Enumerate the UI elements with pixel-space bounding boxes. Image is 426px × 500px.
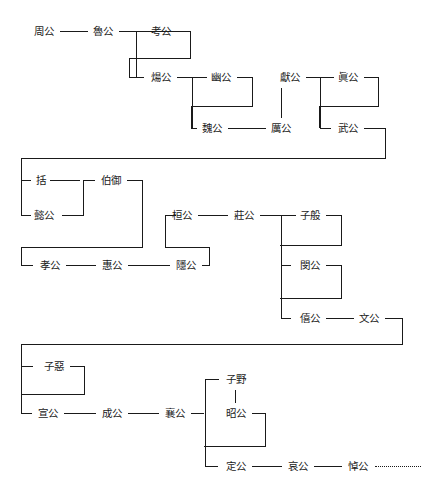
edge-kaogong-wrap-down (190, 31, 191, 58)
node-aigong: 哀公 (288, 460, 309, 472)
edge-spine-to-yigong (21, 215, 31, 216)
node-boyu: 伯御 (101, 174, 122, 186)
edge-xiangong-down-foot (320, 128, 331, 129)
edge-zhaogong-wrap-back (204, 446, 266, 447)
edge-mingong-wrap-back (280, 298, 342, 299)
edge-wengong-out (385, 318, 403, 319)
edge-ligong-xiangong (281, 88, 282, 118)
edge-huigong-yingong (128, 265, 170, 266)
edge-yigong-up-top (83, 180, 95, 181)
edge-ziban-out (326, 215, 342, 216)
edge-boyu-to-xiaogong (21, 265, 33, 266)
node-zhuanggong: 莊公 (234, 209, 255, 221)
edge-huangong-left-foot (165, 247, 210, 248)
edge-chenggong-xianggong (128, 413, 159, 414)
edge-zhengong-wrap-down (378, 77, 379, 106)
spine-xianggong-children (205, 379, 206, 466)
edge-yingong-wrap-tail (209, 247, 210, 265)
edge-zhougong-lugong (60, 31, 88, 32)
node-wugong: 武公 (338, 122, 359, 134)
edge-kuo-boyu (50, 180, 80, 181)
node-kaogong: 考公 (151, 25, 172, 37)
edge-spine-to-ziye (205, 379, 219, 380)
edge-spine-to-zie (21, 366, 33, 367)
edge-huangong-zhuanggong (198, 215, 228, 216)
edge-boyu-wrap-back (21, 247, 143, 248)
edge-huangong-left-up (165, 215, 166, 247)
edge-yingong-to-huangong (166, 215, 176, 216)
edge-zhaogong-wrap-down (265, 413, 266, 446)
node-zie: 子惡 (44, 360, 65, 372)
edge-yigong-bar (62, 215, 84, 216)
edge-zhengong-out (364, 77, 379, 78)
edge-spine-to-xuangong (21, 413, 32, 414)
node-xigong: 僖公 (300, 312, 321, 324)
edge-wengong-wrap-down (402, 318, 403, 344)
edge-yougong-wrap-back (191, 106, 253, 107)
node-zhougong: 周公 (34, 25, 55, 37)
edge-ziye-zhaogong-dash (235, 390, 236, 403)
edge-weigong-ligong (228, 128, 266, 129)
edge-boyu-wrap-tail (21, 247, 22, 265)
edge-kaogong-to-yanggong (129, 77, 144, 78)
edge-spine-to-xigong (281, 318, 291, 319)
edge-yougong-wrap-tail (191, 106, 192, 128)
edge-wugong-wrap-down (385, 128, 386, 158)
node-dinggong: 定公 (226, 460, 247, 472)
node-weigong: 魏公 (202, 122, 223, 134)
edge-zie-out (70, 366, 85, 367)
node-ziye: 子野 (226, 373, 247, 385)
edge-zie-wrap-down (84, 366, 85, 394)
node-yanggong: 煬公 (151, 71, 172, 83)
edge-lugong-down (136, 31, 137, 77)
edge-aigong-daogong (314, 466, 342, 467)
spine-row8 (21, 344, 22, 413)
node-yingong: 隱公 (176, 259, 197, 271)
node-wengong: 文公 (359, 312, 380, 324)
edge-yanggong-down (192, 77, 193, 128)
spine-zhuanggong-children (281, 215, 282, 318)
edge-spine-to-mingong (281, 265, 291, 266)
edge-dinggong-aigong (252, 466, 282, 467)
edge-zie-wrap-back (21, 394, 85, 395)
node-lugong: 魯公 (93, 25, 114, 37)
node-yougong: 幽公 (211, 71, 232, 83)
spine-row4 (21, 158, 22, 215)
edge-xiangong-down (320, 77, 321, 128)
edge-mingong-out (326, 265, 342, 266)
node-yigong: 懿公 (34, 209, 55, 221)
edge-yougong-to-weigong (191, 128, 197, 129)
node-zhaogong: 昭公 (226, 407, 247, 419)
edge-wugong-wrap-back (21, 158, 386, 159)
edge-zhengong-wrap-back (319, 106, 379, 107)
node-ziban: 子般 (300, 209, 321, 221)
edge-xuangong-chenggong (64, 413, 96, 414)
edge-wengong-wrap-back (21, 344, 403, 345)
node-xiaogong: 孝公 (40, 259, 61, 271)
edge-kaogong-wrap-back (129, 58, 191, 59)
node-ligong: 厲公 (271, 122, 292, 134)
edge-kaogong-wrap-tail (129, 58, 130, 77)
edge-ziban-wrap-back (280, 245, 342, 246)
edge-xigong-wengong (326, 318, 354, 319)
genealogy-chart: 周公 魯公 考公 煬公 幽公 獻公 眞公 魏公 厲公 武公 括 伯御 (0, 0, 426, 500)
edge-spine-to-kuo (21, 180, 31, 181)
edge-mingong-wrap-down (341, 265, 342, 298)
edge-yougong-out (237, 77, 253, 78)
node-daogong: 悼公 (348, 460, 369, 472)
node-kuo: 括 (36, 174, 46, 186)
node-xianggong: 襄公 (165, 407, 186, 419)
edge-zhuanggong-bar (260, 215, 296, 216)
edge-spine-to-dinggong (205, 466, 218, 467)
edge-ziban-wrap-down (341, 215, 342, 245)
node-zhengong: 眞公 (338, 71, 359, 83)
node-xiangong: 獻公 (280, 71, 301, 83)
edge-zhaogong-out (252, 413, 266, 414)
node-chenggong: 成公 (102, 407, 123, 419)
edge-yougong-wrap-down (252, 77, 253, 106)
edge-zhengong-wrap-tail (319, 106, 320, 128)
edge-kaogong-out (177, 31, 191, 32)
node-mingong: 閔公 (300, 259, 321, 271)
edge-yigong-up (83, 180, 84, 215)
edge-xiaogong-huigong (66, 265, 96, 266)
